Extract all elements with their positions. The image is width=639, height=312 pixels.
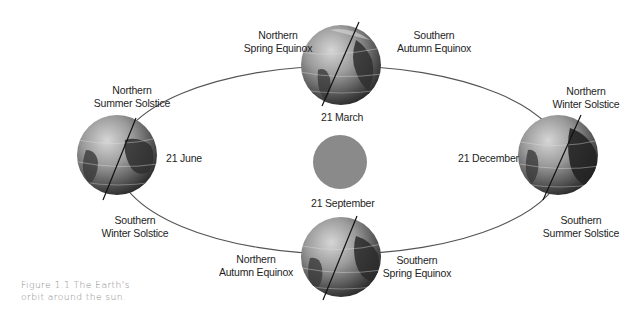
label-line: Summer Solstice	[531, 227, 631, 240]
label-line: Autumn Equinox	[384, 42, 484, 55]
label-northern-spring-equinox: Northern Spring Equinox	[228, 29, 328, 55]
label-line: Summer Solstice	[82, 97, 182, 110]
label-southern-spring-equinox: Southern Spring Equinox	[367, 254, 467, 280]
label-line: Spring Equinox	[367, 267, 467, 280]
earth-globe-june	[77, 115, 158, 200]
caption-line: orbit around the sun.	[21, 291, 130, 303]
label-line: Northern	[536, 85, 636, 98]
label-line: Northern	[82, 84, 182, 97]
date-21-september: 21 September	[311, 197, 375, 209]
label-southern-autumn-equinox: Southern Autumn Equinox	[384, 29, 484, 55]
label-line: Southern	[531, 214, 631, 227]
label-line: Autumn Equinox	[206, 266, 306, 279]
label-line: Spring Equinox	[228, 42, 328, 55]
label-line: Northern	[228, 29, 328, 42]
figure-caption: Figure 1.1 The Earth's orbit around the …	[21, 279, 130, 303]
label-line: Winter Solstice	[85, 227, 185, 240]
caption-line: Figure 1.1 The Earth's	[21, 279, 130, 291]
date-21-december: 21 December	[458, 152, 519, 164]
label-northern-summer-solstice: Northern Summer Solstice	[82, 84, 182, 110]
sun	[313, 135, 367, 189]
label-northern-winter-solstice: Northern Winter Solstice	[536, 85, 636, 111]
label-line: Southern	[384, 29, 484, 42]
label-line: Winter Solstice	[536, 98, 636, 111]
label-southern-summer-solstice: Southern Summer Solstice	[531, 214, 631, 240]
label-line: Southern	[85, 214, 185, 227]
label-southern-winter-solstice: Southern Winter Solstice	[85, 214, 185, 240]
label-line: Northern	[206, 253, 306, 266]
earth-orbit-diagram: Northern Spring Equinox Southern Autumn …	[0, 0, 639, 312]
label-line: Southern	[367, 254, 467, 267]
earth-globe-december	[518, 115, 600, 200]
date-21-june: 21 June	[166, 152, 202, 164]
label-northern-autumn-equinox: Northern Autumn Equinox	[206, 253, 306, 279]
date-21-march: 21 March	[321, 111, 363, 123]
